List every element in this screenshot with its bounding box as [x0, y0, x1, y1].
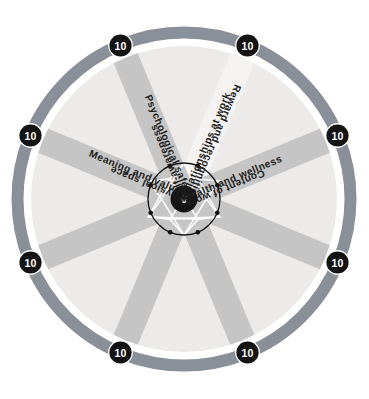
badge-label: 10 [331, 257, 343, 269]
badge-content-of-work[interactable]: 10 [108, 340, 133, 365]
badge-label: 10 [241, 40, 253, 52]
badge-self-awareness[interactable]: 10 [325, 123, 350, 148]
badge-psychological-safety[interactable]: 10 [18, 123, 43, 148]
badge-reward-and-recognition[interactable]: 10 [18, 250, 43, 275]
badge-label: 10 [241, 347, 253, 359]
badge-physical-space[interactable]: 10 [235, 33, 260, 58]
badge-label: 10 [114, 347, 126, 359]
badge-label: 10 [24, 257, 36, 269]
badge-label: 10 [331, 130, 343, 142]
badge-relationships-at-work[interactable]: 10 [325, 250, 350, 275]
wheel-canvas: 0 Physical space Self-awareness Relation… [0, 0, 369, 399]
badge-health-and-wellness[interactable]: 10 [235, 340, 260, 365]
wellbeing-wheel-diagram: 0 Physical space Self-awareness Relation… [0, 0, 369, 399]
badge-meaning-and-values[interactable]: 10 [108, 33, 133, 58]
badge-label: 10 [24, 130, 36, 142]
badge-label: 10 [114, 40, 126, 52]
